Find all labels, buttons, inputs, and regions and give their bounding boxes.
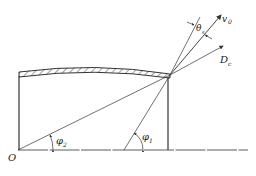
v0-subscript: 0 bbox=[228, 18, 232, 25]
hatched-roof bbox=[19, 67, 170, 78]
phi2-subscript: 2 bbox=[62, 141, 67, 148]
phi1-subscript: 1 bbox=[149, 137, 153, 144]
phi2-arc bbox=[50, 135, 53, 150]
ray-dc bbox=[170, 46, 223, 75]
v0-label: v bbox=[222, 14, 227, 24]
phi1-label: φ bbox=[142, 131, 149, 142]
dc-label: D bbox=[219, 54, 228, 65]
theta-arrow-left bbox=[187, 22, 194, 25]
phi2-label: φ bbox=[56, 135, 63, 146]
origin-label: O bbox=[8, 152, 16, 163]
theta-subscript: s bbox=[202, 29, 205, 35]
geometry-diagram: O φ 2 φ 1 θ s v 0 D c bbox=[0, 0, 256, 176]
theta-arrow-right bbox=[205, 35, 212, 39]
dc-subscript: c bbox=[228, 60, 232, 67]
